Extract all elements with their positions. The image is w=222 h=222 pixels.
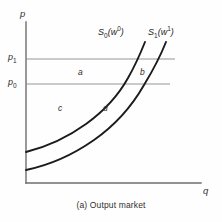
tick-label-p1-sub: 1	[13, 57, 17, 64]
tick-label-p0-sub: 0	[13, 82, 17, 89]
x-axis-label: q	[203, 186, 208, 196]
tick-label-p1: p1	[8, 53, 17, 64]
curve-label-s1-argclose: )	[171, 27, 174, 37]
curve-label-s0-argclose: )	[121, 27, 124, 37]
figure-output-market: p q p1 p0 S0(w0) S1(w1) a b c d (a) Outp…	[0, 0, 222, 222]
y-axis-label: p	[20, 9, 25, 19]
tick-label-p0: p0	[8, 78, 17, 89]
curve-label-s1-argopen: (w	[158, 27, 168, 37]
curve-label-s1: S1(w1)	[148, 26, 174, 39]
curve-label-s0-argopen: (w	[108, 27, 118, 37]
figure-caption: (a) Output market	[0, 200, 222, 210]
region-label-c: c	[58, 104, 62, 113]
region-label-b: b	[140, 68, 145, 77]
region-label-a: a	[78, 68, 83, 77]
region-label-d: d	[103, 104, 108, 113]
supply-curve-s1	[26, 42, 166, 170]
supply-curve-s0	[26, 42, 145, 152]
curve-label-s0: S0(w0)	[98, 26, 124, 39]
